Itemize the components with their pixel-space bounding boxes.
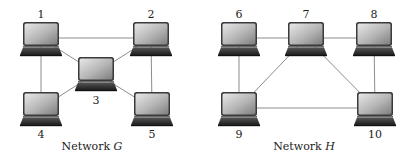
node-label-4: 4 [38,128,45,141]
laptop-icon [131,92,173,126]
network-caption-H: Network H [273,140,335,153]
laptop-icon [20,22,62,56]
laptop-icon [353,22,395,56]
caption-prefix: Network [273,140,325,153]
laptop-icon [218,92,260,126]
caption-variable: G [114,140,123,153]
network-caption-G: Network G [62,140,123,153]
node-label-7: 7 [303,8,310,21]
laptop-icon [75,57,117,91]
laptop-icon [285,22,327,56]
caption-variable: H [324,140,335,153]
laptop-icon [354,92,396,126]
node-label-9: 9 [236,128,243,141]
node-label-6: 6 [236,8,243,21]
node-label-10: 10 [368,128,382,141]
network-diagram: 12345Network G678910Network H [0,0,415,161]
laptop-icon [20,92,62,126]
caption-prefix: Network [62,140,114,153]
node-label-3: 3 [93,94,100,107]
node-label-5: 5 [149,128,156,141]
node-label-8: 8 [371,8,378,21]
node-label-2: 2 [148,8,155,21]
laptop-icon [218,22,260,56]
node-label-1: 1 [38,8,45,21]
laptop-icon [130,22,172,56]
